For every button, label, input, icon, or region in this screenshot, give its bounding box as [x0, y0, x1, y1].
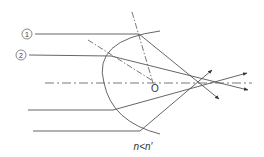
normal-line-2	[88, 40, 153, 81]
ray-3-refracted	[113, 73, 247, 110]
ray-label-2: 2	[19, 52, 23, 59]
ray-label-1: 1	[25, 31, 29, 38]
condition-label: n<n′	[134, 141, 154, 152]
ray-2-refracted	[111, 56, 248, 90]
center-label: O	[151, 83, 159, 94]
refraction-diagram: 1 2 O n<n′	[0, 0, 264, 157]
ray-2-incident	[29, 55, 111, 56]
normal-line-1	[132, 12, 153, 83]
